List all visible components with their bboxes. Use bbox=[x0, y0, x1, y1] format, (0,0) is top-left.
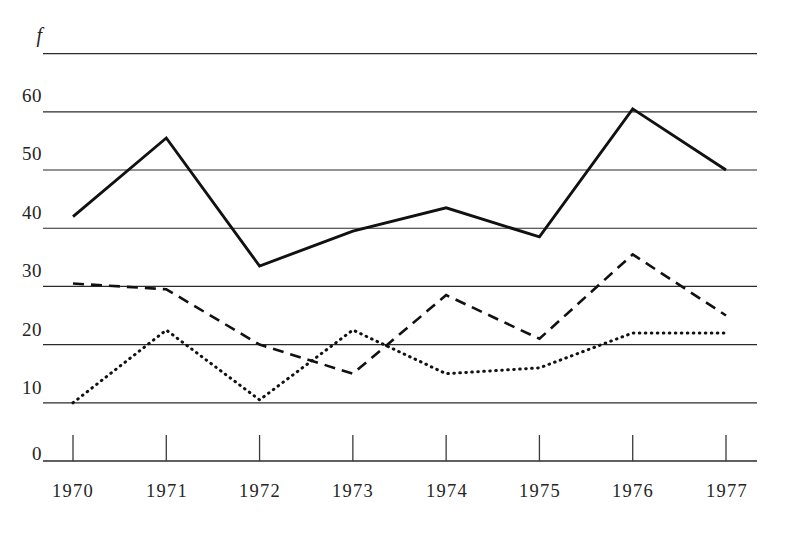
x-tick-label-1971: 1971 bbox=[127, 481, 207, 502]
y-tick-label-50: 50 bbox=[8, 143, 42, 165]
chart-plot-area bbox=[0, 0, 792, 533]
x-tick-label-1970: 1970 bbox=[33, 481, 113, 502]
series-solid bbox=[73, 109, 726, 266]
y-tick-label-40: 40 bbox=[8, 202, 42, 224]
series-dashed bbox=[73, 254, 726, 373]
series-dotted bbox=[73, 330, 726, 403]
x-tick-label-1976: 1976 bbox=[593, 481, 673, 502]
y-tick-label-10: 10 bbox=[8, 377, 42, 399]
line-chart: f 60 50 40 30 20 10 0 1970 1971 1972 197… bbox=[0, 0, 792, 533]
y-tick-label-0: 0 bbox=[8, 443, 42, 465]
y-tick-label-20: 20 bbox=[8, 319, 42, 341]
x-tick-label-1973: 1973 bbox=[313, 481, 393, 502]
x-tick-label-1974: 1974 bbox=[407, 481, 487, 502]
x-tickmarks-group bbox=[73, 435, 726, 461]
y-axis-symbol: f bbox=[8, 24, 42, 47]
y-tick-label-60: 60 bbox=[8, 85, 42, 107]
x-tick-label-1972: 1972 bbox=[220, 481, 300, 502]
x-tick-label-1975: 1975 bbox=[500, 481, 580, 502]
y-tick-label-30: 30 bbox=[8, 260, 42, 282]
data-series-group bbox=[73, 109, 726, 403]
x-tick-label-1977: 1977 bbox=[687, 481, 767, 502]
gridlines-group bbox=[43, 54, 757, 461]
